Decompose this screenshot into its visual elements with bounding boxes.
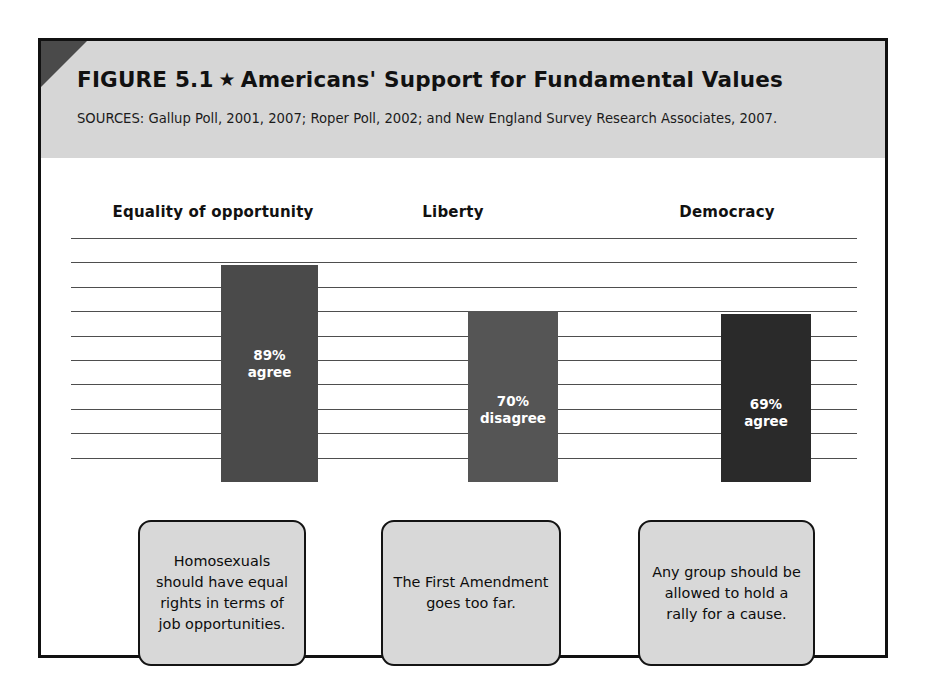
caption-box-1: The First Amendment goes too far.: [381, 520, 561, 666]
bar-1: 70%disagree: [468, 311, 558, 482]
bar-value-label-2: 69%agree: [721, 396, 811, 430]
bar-percent-0: 89%: [221, 347, 318, 364]
bar-response-0: agree: [221, 364, 318, 381]
bar-response-1: disagree: [468, 410, 558, 427]
caption-text-2: Any group should be allowed to hold a ra…: [648, 562, 805, 625]
figure-frame: FIGURE 5.1★Americans' Support for Fundam…: [38, 38, 888, 658]
figure-title-text: Americans' Support for Fundamental Value…: [241, 67, 783, 92]
gridline: [71, 262, 857, 263]
figure-header-band: FIGURE 5.1★Americans' Support for Fundam…: [41, 41, 885, 158]
caption-text-1: The First Amendment goes too far.: [391, 572, 551, 614]
gridline: [71, 311, 857, 312]
column-label-0: Equality of opportunity: [113, 203, 314, 221]
column-label-1: Liberty: [422, 203, 483, 221]
bar-value-label-0: 89%agree: [221, 347, 318, 381]
chart-area: Equality of opportunity Liberty Democrac…: [41, 158, 885, 655]
figure-title: FIGURE 5.1★Americans' Support for Fundam…: [77, 67, 783, 92]
column-label-2: Democracy: [679, 203, 774, 221]
figure-sources-line: SOURCES: Gallup Poll, 2001, 2007; Roper …: [77, 111, 777, 126]
bar-0: 89%agree: [221, 265, 318, 482]
gridline: [71, 238, 857, 239]
caption-box-2: Any group should be allowed to hold a ra…: [638, 520, 815, 666]
star-icon: ★: [214, 68, 241, 90]
caption-box-0: Homosexuals should have equal rights in …: [138, 520, 306, 666]
figure-number-label: FIGURE 5.1: [77, 67, 214, 92]
bar-value-label-1: 70%disagree: [468, 393, 558, 427]
bar-percent-2: 69%: [721, 396, 811, 413]
gridline: [71, 287, 857, 288]
bar-2: 69%agree: [721, 314, 811, 482]
bar-percent-1: 70%: [468, 393, 558, 410]
caption-text-0: Homosexuals should have equal rights in …: [148, 551, 296, 635]
bar-chart-plot: 89%agree70%disagree69%agree: [71, 238, 857, 482]
bar-response-2: agree: [721, 413, 811, 430]
